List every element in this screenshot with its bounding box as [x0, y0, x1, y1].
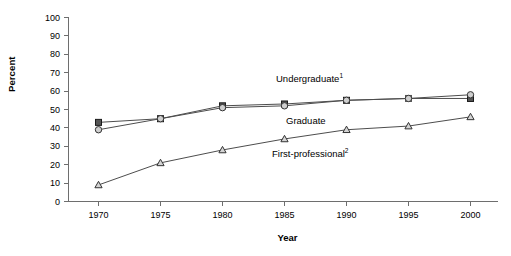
y-tick-label-90: 90 [50, 31, 60, 41]
data-series-layer [95, 92, 474, 188]
x-tick-label-1970: 1970 [88, 210, 108, 220]
y-tick-label-30: 30 [50, 141, 60, 151]
y-tick-label-100: 100 [45, 13, 60, 23]
y-tick-label-40: 40 [50, 123, 60, 133]
annotation-undergraduate-superscript: 1 [339, 72, 343, 79]
x-axis-ticks [99, 202, 471, 207]
chart-plot-area: 100 90 80 70 60 50 40 30 20 10 0 1970 19… [0, 0, 511, 256]
x-tick-label-1995: 1995 [398, 210, 418, 220]
series-graduate [95, 92, 473, 133]
y-tick-label-20: 20 [50, 160, 60, 170]
marker-circle [343, 97, 349, 103]
annotation-graduate: Graduate [286, 115, 326, 126]
series-undergraduate [96, 95, 474, 125]
marker-circle [467, 92, 473, 98]
marker-circle [95, 127, 101, 133]
marker-circle [405, 95, 411, 101]
y-tick-label-50: 50 [50, 105, 60, 115]
x-tick-label-1985: 1985 [274, 210, 294, 220]
annotation-undergraduate: Undergraduate1 [276, 72, 343, 84]
chart-container: Percent Year 100 90 80 70 60 50 [0, 0, 511, 256]
y-tick-label-0: 0 [55, 197, 60, 207]
annotation-undergraduate-text: Undergraduate [276, 73, 339, 84]
x-axis-tick-labels: 1970 1975 1980 1985 1990 1995 2000 [88, 210, 480, 220]
y-tick-label-70: 70 [50, 68, 60, 78]
y-tick-label-60: 60 [50, 86, 60, 96]
y-axis-ticks [64, 18, 69, 202]
annotation-first-professional-text: First-professional [272, 148, 345, 159]
annotation-first-professional-superscript: 2 [345, 147, 349, 154]
x-tick-label-1980: 1980 [212, 210, 232, 220]
series-line-1 [99, 95, 471, 130]
series-annotations: Undergraduate1 Graduate First-profession… [272, 72, 349, 159]
marker-circle [281, 103, 287, 109]
y-tick-label-10: 10 [50, 178, 60, 188]
marker-circle [219, 104, 225, 110]
marker-triangle [467, 113, 474, 119]
y-axis-tick-labels: 100 90 80 70 60 50 40 30 20 10 0 [45, 13, 60, 207]
annotation-first-professional: First-professional2 [272, 147, 349, 159]
x-tick-label-1990: 1990 [336, 210, 356, 220]
x-tick-label-2000: 2000 [460, 210, 480, 220]
marker-square [96, 119, 102, 125]
y-tick-label-80: 80 [50, 49, 60, 59]
x-tick-label-1975: 1975 [150, 210, 170, 220]
annotation-graduate-text: Graduate [286, 115, 326, 126]
marker-circle [157, 116, 163, 122]
